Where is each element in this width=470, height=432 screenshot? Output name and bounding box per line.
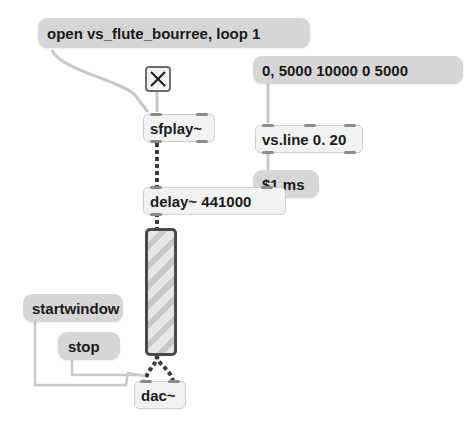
dac-label: dac~: [141, 388, 176, 403]
inlet-port[interactable]: [150, 186, 162, 189]
outlet-port[interactable]: [196, 140, 208, 143]
max-patcher-canvas[interactable]: open vs_flute_bourree, loop 1 0, 5000 10…: [0, 0, 470, 432]
startwindow-label: startwindow: [32, 301, 120, 316]
inlet-port[interactable]: [150, 113, 162, 116]
sfplay-object[interactable]: sfplay~: [143, 114, 215, 142]
stop-message-box[interactable]: stop: [58, 332, 120, 360]
outlet-port[interactable]: [344, 151, 356, 154]
outlet-port[interactable]: [150, 140, 162, 143]
open-message-label: open vs_flute_bourree, loop 1: [47, 26, 260, 41]
x-mark-icon: [149, 70, 167, 88]
delay-object[interactable]: delay~ 441000: [143, 187, 286, 215]
delay-label: delay~ 441000: [150, 194, 251, 209]
inlet-port[interactable]: [140, 380, 152, 383]
inlet-port[interactable]: [196, 113, 208, 116]
inlet-port[interactable]: [304, 124, 316, 127]
open-message-box[interactable]: open vs_flute_bourree, loop 1: [38, 18, 310, 48]
sfplay-label: sfplay~: [150, 121, 202, 136]
dac-object[interactable]: dac~: [134, 381, 186, 409]
vs-line-object[interactable]: vs.line 0. 20: [255, 125, 363, 153]
stop-label: stop: [68, 339, 100, 354]
inlet-port[interactable]: [168, 380, 180, 383]
startwindow-message-box[interactable]: startwindow: [23, 294, 123, 322]
inlet-port[interactable]: [344, 124, 356, 127]
inlet-port[interactable]: [261, 186, 273, 189]
line-values-message-box[interactable]: 0, 5000 10000 0 5000: [253, 56, 463, 84]
outlet-port[interactable]: [150, 213, 162, 216]
vs-line-label: vs.line 0. 20: [262, 132, 346, 147]
line-values-label: 0, 5000 10000 0 5000: [262, 63, 408, 78]
outlet-port[interactable]: [262, 151, 274, 154]
play-toggle[interactable]: [145, 66, 171, 92]
inlet-port[interactable]: [262, 124, 274, 127]
level-meter: [145, 228, 177, 356]
